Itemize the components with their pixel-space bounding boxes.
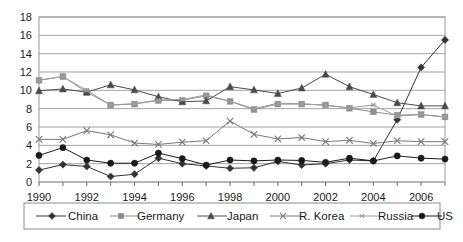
datapoint-us-2003 xyxy=(346,155,352,161)
legend-label-us: US xyxy=(437,210,453,222)
datapoint-us-1998 xyxy=(227,157,233,163)
datapoint-japan-2003 xyxy=(346,83,353,90)
datapoint-us-2000 xyxy=(275,157,281,163)
x-tick-label-1990: 1990 xyxy=(27,191,51,203)
datapoint-japan-2001 xyxy=(298,84,305,91)
datapoint-china-1994 xyxy=(131,171,138,178)
x-tick-label-2006: 2006 xyxy=(409,191,433,203)
x-tick-label-1996: 1996 xyxy=(170,191,194,203)
y-tick-label-0: 0 xyxy=(26,176,32,188)
series-line-germany xyxy=(39,77,445,117)
x-axis-tick-labels: 199019921994199619982000200220042006 xyxy=(27,191,434,203)
y-tick-label-12: 12 xyxy=(20,66,32,78)
y-tick-label-14: 14 xyxy=(20,48,32,60)
series-japan xyxy=(36,70,449,108)
datapoint-us-1997 xyxy=(203,162,209,168)
x-tick-label-2002: 2002 xyxy=(313,191,337,203)
data-series-group xyxy=(35,36,448,180)
x-tick-label-1992: 1992 xyxy=(75,191,99,203)
datapoint-us-1999 xyxy=(251,158,257,164)
legend-marker-germany xyxy=(118,213,124,219)
chart-legend: ChinaGermanyJapanR. KoreaRussiaUS xyxy=(24,203,453,229)
datapoint-japan-1991 xyxy=(59,85,66,92)
legend-label-china: China xyxy=(68,210,99,222)
legend-label-r-korea: R. Korea xyxy=(299,210,345,222)
y-tick-label-4: 4 xyxy=(26,139,32,151)
datapoint-us-2001 xyxy=(299,157,305,163)
x-tick-label-2004: 2004 xyxy=(361,191,385,203)
datapoint-japan-2002 xyxy=(322,70,329,77)
datapoint-us-2007 xyxy=(442,156,448,162)
legend-marker-us xyxy=(419,213,425,219)
chart-canvas: 024681012141618 199019921994199619982000… xyxy=(0,0,463,242)
datapoint-us-1994 xyxy=(131,160,137,166)
x-tick-label-2000: 2000 xyxy=(266,191,290,203)
series-line-us xyxy=(39,148,445,165)
datapoint-us-1996 xyxy=(179,156,185,162)
x-tick-label-1994: 1994 xyxy=(122,191,146,203)
legend-label-japan: Japan xyxy=(227,210,258,222)
series-line-china xyxy=(39,40,445,177)
y-tick-label-6: 6 xyxy=(26,121,32,133)
y-tick-label-8: 8 xyxy=(26,103,32,115)
datapoint-us-2005 xyxy=(394,153,400,159)
datapoint-japan-1993 xyxy=(107,81,114,88)
datapoint-china-1993 xyxy=(107,173,114,180)
y-tick-label-10: 10 xyxy=(20,84,32,96)
y-axis-tick-labels: 024681012141618 xyxy=(20,11,32,188)
y-tick-label-16: 16 xyxy=(20,29,32,41)
datapoint-china-1999 xyxy=(250,164,257,171)
datapoint-japan-1998 xyxy=(227,83,234,90)
series-line-r-korea xyxy=(39,121,445,144)
line-chart: 024681012141618 199019921994199619982000… xyxy=(0,0,463,242)
series-russia xyxy=(36,74,448,119)
y-tick-label-2: 2 xyxy=(26,158,32,170)
x-tick-label-1998: 1998 xyxy=(218,191,242,203)
datapoint-china-1990 xyxy=(35,166,42,173)
datapoint-us-1990 xyxy=(36,152,42,158)
datapoint-us-1995 xyxy=(155,150,161,156)
series-r-korea xyxy=(36,118,448,148)
series-line-russia xyxy=(39,77,445,117)
datapoint-china-1991 xyxy=(59,161,66,168)
datapoint-r-korea-1998 xyxy=(227,118,233,124)
datapoint-us-1992 xyxy=(84,157,90,163)
datapoint-russia-2004 xyxy=(370,103,376,107)
datapoint-us-2004 xyxy=(370,158,376,164)
datapoint-china-1998 xyxy=(226,165,233,172)
datapoint-us-1993 xyxy=(108,160,114,166)
datapoint-us-2006 xyxy=(418,155,424,161)
legend-label-germany: Germany xyxy=(137,210,185,222)
series-us xyxy=(36,145,448,169)
x-axis-ticks xyxy=(39,182,445,186)
y-tick-label-18: 18 xyxy=(20,11,32,23)
datapoint-germany-2004 xyxy=(370,109,376,115)
legend-label-russia: Russia xyxy=(378,210,414,222)
datapoint-us-1991 xyxy=(60,145,66,151)
datapoint-us-2002 xyxy=(322,159,328,165)
